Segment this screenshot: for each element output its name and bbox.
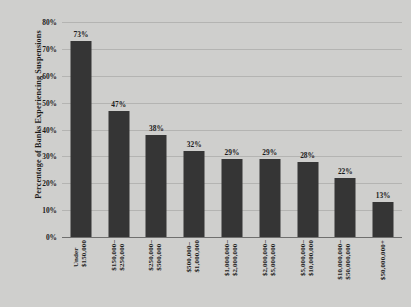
x-axis-category-line: $250,000	[119, 240, 126, 271]
y-axis-tick-label: 0%	[46, 233, 57, 242]
bar-value-label: 38%	[149, 124, 164, 133]
bar[interactable]	[373, 202, 394, 237]
bar-group: 29%	[251, 22, 289, 237]
bar-value-label: 28%	[300, 151, 315, 160]
x-axis-category-line: $2,000,000–	[262, 240, 269, 276]
bar-value-label: 29%	[262, 148, 277, 157]
x-axis-category-line: $2,000,000	[232, 240, 239, 276]
bar-group: 13%	[364, 22, 402, 237]
bars-layer: 73%47%38%32%29%29%28%22%13%	[62, 22, 402, 237]
bar[interactable]	[184, 151, 205, 237]
bar[interactable]	[146, 135, 167, 237]
x-axis-category-line: $1,000,000–	[224, 240, 231, 276]
bar[interactable]	[335, 178, 356, 237]
bar-value-label: 13%	[376, 191, 391, 200]
bar[interactable]	[259, 159, 280, 237]
x-axis-category-line: $500,000	[156, 240, 163, 271]
bar-value-label: 73%	[73, 30, 88, 39]
x-axis-category-line: $150,000–	[111, 240, 118, 271]
x-axis-category-line: $1,000,000	[194, 240, 201, 273]
y-axis-title: Percentage of Banks Experiencing Suspens…	[34, 15, 43, 215]
x-axis-category-line: $50,000,000+	[380, 240, 387, 280]
bar-chart: Percentage of Banks Experiencing Suspens…	[0, 0, 411, 307]
y-axis-tick-label: 10%	[42, 206, 57, 215]
bar[interactable]	[297, 162, 318, 237]
bar-value-label: 29%	[225, 148, 240, 157]
bar-value-label: 47%	[111, 100, 126, 109]
x-axis-category-line: $50,000,000	[345, 240, 352, 280]
bar-value-label: 22%	[338, 167, 353, 176]
x-axis-category-line: $5,000,000	[270, 240, 277, 276]
bar-group: 22%	[326, 22, 364, 237]
bar[interactable]	[221, 159, 242, 237]
bar[interactable]	[108, 111, 129, 237]
plot-area: 80%70%60%50%40%30%20%10%0% 73%47%38%32%2…	[62, 22, 402, 237]
bar-group: 28%	[289, 22, 327, 237]
bar-group: 47%	[100, 22, 138, 237]
y-axis-tick-label: 50%	[42, 98, 57, 107]
bar-group: 38%	[138, 22, 176, 237]
y-axis-tick-label: 60%	[42, 71, 57, 80]
y-axis-tick-label: 40%	[42, 125, 57, 134]
bar-value-label: 32%	[187, 140, 202, 149]
x-axis-category-line: $5,000,000–	[300, 240, 307, 276]
x-axis-category-line: Under	[73, 240, 80, 267]
x-axis-category-line: $150,000	[81, 240, 88, 267]
y-axis-tick-label: 80%	[42, 18, 57, 27]
bar-group: 29%	[213, 22, 251, 237]
x-axis-category-line: $10,000,000	[308, 240, 315, 276]
bar-group: 32%	[175, 22, 213, 237]
bar[interactable]	[70, 41, 91, 237]
y-axis-tick-label: 20%	[42, 179, 57, 188]
y-axis-tick-label: 30%	[42, 152, 57, 161]
bar-group: 73%	[62, 22, 100, 237]
x-axis-labels: Under$150,000$150,000–$250,000$250,000–$…	[62, 238, 402, 307]
y-axis-tick-label: 70%	[42, 44, 57, 53]
